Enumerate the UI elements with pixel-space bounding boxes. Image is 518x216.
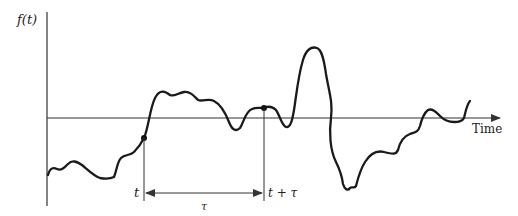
t-label: t	[134, 185, 140, 200]
x-axis-label: Time	[472, 122, 502, 136]
tau-label: τ	[201, 200, 208, 213]
y-axis-label: f(t)	[16, 12, 37, 27]
t-plus-tau-label: t + τ	[268, 186, 298, 200]
random-signal-diagram: f(t) Time t t + τ τ	[0, 0, 518, 216]
